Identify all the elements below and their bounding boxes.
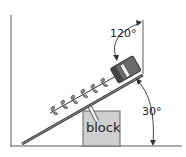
- block-label: block: [86, 120, 121, 135]
- arrowhead-120-top: [136, 20, 142, 26]
- arrowhead-30-bottom: [150, 140, 156, 146]
- arrowhead-120-bottom: [113, 55, 119, 61]
- angle-label-120: 120°: [110, 27, 137, 40]
- angle-label-30: 30°: [142, 105, 162, 118]
